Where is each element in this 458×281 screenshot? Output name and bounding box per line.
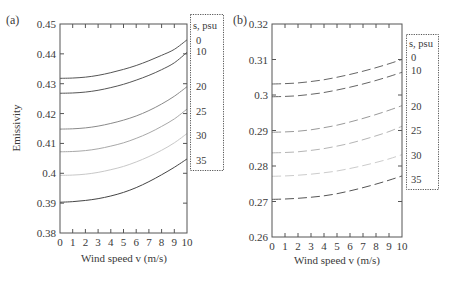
x-tick-label: 8 (159, 236, 165, 248)
x-tick-label: 2 (83, 236, 89, 248)
x-tick-label: 6 (347, 240, 353, 252)
x-tick-label: 4 (108, 236, 114, 248)
legend-a-item-20: 20 (196, 81, 207, 92)
x-tick-label: 4 (321, 240, 327, 252)
x-tick-label: 7 (146, 236, 152, 248)
panel-a-x-axis-label: Wind speed v (m/s) (81, 252, 167, 265)
panel-b-series (272, 60, 402, 200)
x-tick-label: 0 (57, 236, 63, 248)
y-tick-label: 0.4 (42, 167, 56, 179)
y-tick-label: 0.28 (249, 160, 269, 172)
y-tick-label: 0.27 (249, 196, 269, 208)
series-line-s25 (60, 109, 187, 152)
legend-b-item-0: 0 (411, 52, 416, 63)
panel-b-label: (b) (233, 13, 247, 27)
panel-a-legend: s, psu 0 10 20 25 30 35 (191, 15, 224, 171)
y-tick-label: 0.42 (37, 108, 56, 120)
x-tick-label: 3 (308, 240, 314, 252)
panel-b-legend: s, psu 0 10 20 25 30 35 (407, 35, 439, 190)
legend-b-title: s, psu (409, 38, 434, 49)
x-tick-label: 8 (373, 240, 379, 252)
panel-b-x-axis-label: Wind speed v (m/s) (294, 254, 380, 267)
series-line-s0 (272, 60, 402, 84)
legend-a-item-25: 25 (196, 106, 207, 117)
legend-b-item-30: 30 (411, 150, 422, 161)
legend-b-item-35: 35 (411, 174, 422, 185)
series-line-s0 (60, 40, 187, 79)
y-tick-label: 0.39 (37, 197, 57, 209)
figure: (a) 0123456789100.380.390.40.410.420.430… (0, 0, 458, 281)
x-tick-label: 10 (182, 236, 194, 248)
x-tick-label: 5 (121, 236, 127, 248)
x-tick-label: 6 (133, 236, 139, 248)
x-tick-label: 2 (295, 240, 301, 252)
legend-a-item-0: 0 (196, 35, 201, 46)
x-tick-label: 0 (269, 240, 275, 252)
series-line-s30 (60, 134, 187, 176)
y-tick-label: 0.43 (37, 78, 57, 90)
x-tick-label: 3 (95, 236, 101, 248)
panel-a-label: (a) (6, 13, 19, 27)
legend-b-item-20: 20 (411, 101, 422, 112)
legend-a-item-30: 30 (196, 130, 207, 141)
panel-b-ticks: 0123456789100.260.270.280.290.30.310.32 (249, 18, 408, 252)
series-line-s10 (272, 72, 402, 96)
y-tick-label: 0.29 (249, 125, 269, 137)
y-tick-label: 0.44 (37, 48, 57, 60)
y-tick-label: 0.45 (37, 18, 57, 30)
x-tick-label: 9 (172, 236, 178, 248)
panel-b-chart: (b) 0123456789100.260.270.280.290.30.310… (233, 13, 439, 267)
legend-a-title: s, psu (193, 20, 218, 31)
x-tick-label: 1 (282, 240, 288, 252)
panel-a-chart: (a) 0123456789100.380.390.40.410.420.430… (6, 13, 224, 265)
series-line-s20 (272, 106, 402, 133)
panel-a-y-axis-label: Emissivity (10, 104, 22, 152)
y-tick-label: 0.38 (37, 227, 57, 239)
x-tick-label: 5 (334, 240, 340, 252)
x-tick-label: 1 (70, 236, 76, 248)
y-tick-label: 0.31 (249, 54, 268, 66)
y-tick-label: 0.41 (37, 137, 56, 149)
series-line-s35 (60, 159, 187, 202)
y-tick-label: 0.3 (254, 89, 268, 101)
y-tick-label: 0.26 (249, 231, 269, 243)
series-line-s10 (60, 52, 187, 93)
series-line-s30 (272, 155, 402, 177)
x-tick-label: 7 (360, 240, 366, 252)
legend-a-item-35: 35 (196, 155, 207, 166)
legend-b-item-10: 10 (411, 65, 422, 76)
y-tick-label: 0.32 (249, 18, 268, 30)
legend-b-item-25: 25 (411, 125, 422, 136)
legend-a-item-10: 10 (196, 46, 207, 57)
panel-b-frame (272, 24, 402, 237)
panel-a-series (60, 40, 187, 202)
x-tick-label: 10 (397, 240, 409, 252)
series-line-s25 (272, 126, 402, 153)
series-line-s35 (272, 176, 402, 199)
x-tick-label: 9 (386, 240, 392, 252)
